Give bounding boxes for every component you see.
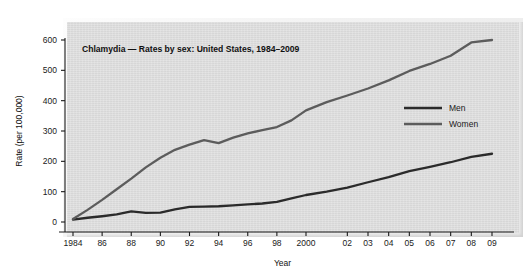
x-axis-tick-label: 94 [214,238,224,248]
x-axis-title-text: Year [274,258,291,268]
x-axis-tick-label: 07 [446,238,456,248]
axes-layer [59,38,514,236]
x-axis-tick-label: 04 [384,238,394,248]
x-axis-tick-label: 08 [467,238,477,248]
y-axis-tick-label: 500 [43,65,57,75]
x-axis-tick-label: 05 [405,238,415,248]
x-axis-tick-label: 96 [243,238,253,248]
y-axis-tick-label: 400 [43,96,57,106]
x-axis-tick-label: 98 [272,238,282,248]
series-line-men [73,154,492,220]
x-axis-tick-label: 88 [127,238,137,248]
x-axis-tick-label: 1984 [64,238,83,248]
x-axis-tick-label: 06 [425,238,435,248]
x-axis-tick-label: 02 [343,238,353,248]
y-axis-tick-label: 100 [43,187,57,197]
x-axis-tick-label: 90 [156,238,166,248]
chart-figure: 0100200300400500600198486889092949698200… [0,0,531,276]
legend-label-women: Women [449,119,478,129]
y-axis-title-text: Rate (per 100,000) [14,95,24,167]
legend-label-men: Men [449,103,466,113]
series-line-women [73,40,492,219]
x-axis-tick-label: 09 [487,238,497,248]
labels-layer: 0100200300400500600198486889092949698200… [14,35,497,268]
x-axis-tick-label: 03 [363,238,373,248]
y-axis-tick-label: 600 [43,35,57,45]
chart-svg: 0100200300400500600198486889092949698200… [0,0,531,276]
y-axis-tick-label: 200 [43,156,57,166]
x-axis-tick-label: 2000 [297,238,316,248]
legend-layer: MenWomen [404,103,478,129]
y-axis-tick-label: 300 [43,126,57,136]
series-layer [73,40,492,220]
y-axis-tick-label: 0 [52,217,57,227]
x-axis-tick-label: 86 [97,238,107,248]
x-axis-tick-label: 92 [185,238,195,248]
chart-title-text: Chlamydia — Rates by sex: United States,… [82,44,300,54]
